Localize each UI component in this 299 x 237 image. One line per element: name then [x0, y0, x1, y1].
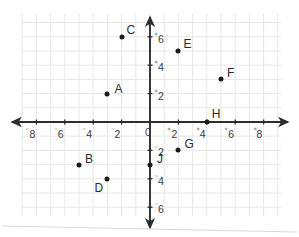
point-label-d: D	[94, 182, 103, 194]
tick-sign: ⁻	[25, 126, 29, 135]
coordinate-plane: ⁻8⁻6⁻4⁻20⁺2⁺4⁺6⁺8⁺6⁺4⁺2⁻2⁻4⁻6 ABCDEFGHJ	[0, 0, 299, 237]
plotted-point-g	[176, 148, 181, 153]
x-tick-label: ⁻4	[82, 127, 92, 139]
tick-sign: ⁺	[196, 126, 200, 135]
plotted-point-d	[105, 176, 110, 181]
x-tick-label: ⁺2	[167, 127, 177, 139]
point-label-h: H	[212, 108, 221, 120]
tick-sign: ⁻	[111, 126, 115, 135]
tick-sign: ⁻	[154, 201, 158, 210]
tick-sign: ⁺	[167, 126, 171, 135]
plotted-point-f	[219, 77, 224, 82]
tick-sign: ⁺	[154, 59, 158, 68]
tick-sign: ⁻	[54, 126, 58, 135]
point-label-b: B	[85, 153, 93, 165]
tick-sign: ⁺	[154, 31, 158, 40]
point-label-g: G	[184, 138, 193, 150]
point-label-f: F	[227, 67, 234, 79]
plotted-point-a	[105, 91, 110, 96]
tick-sign: ⁺	[154, 88, 158, 97]
point-label-c: C	[127, 24, 136, 36]
point-label-j: J	[157, 153, 163, 165]
plotted-point-c	[119, 34, 124, 39]
y-tick-label: ⁻4	[154, 174, 164, 186]
x-tick-label: ⁺8	[253, 127, 263, 139]
axes	[0, 0, 299, 237]
x-tick-label: 0	[145, 127, 151, 138]
x-tick-label: ⁻2	[111, 127, 121, 139]
x-tick-label: ⁻6	[54, 127, 64, 139]
y-tick-label: ⁺6	[154, 32, 164, 44]
x-tick-label: ⁺4	[196, 127, 206, 139]
plotted-point-b	[77, 162, 82, 167]
point-label-a: A	[114, 83, 122, 95]
tick-sign: ⁺	[253, 126, 257, 135]
y-tick-label: ⁺4	[154, 60, 164, 72]
point-label-e: E	[183, 38, 191, 50]
tick-sign: ⁻	[154, 173, 158, 182]
y-tick-label: ⁺2	[154, 89, 164, 101]
y-tick-label: ⁻6	[154, 202, 164, 214]
tick-sign: ⁻	[82, 126, 86, 135]
x-tick-label: ⁻8	[25, 127, 35, 139]
plotted-point-e	[176, 49, 181, 54]
tick-sign: ⁺	[224, 126, 228, 135]
plotted-point-h	[204, 120, 209, 125]
plotted-point-j	[148, 162, 153, 167]
x-tick-label: ⁺6	[224, 127, 234, 139]
